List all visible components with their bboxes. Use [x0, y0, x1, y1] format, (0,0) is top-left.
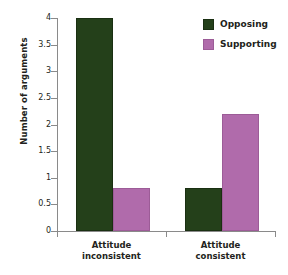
- bar-opposing-1: [185, 188, 222, 231]
- legend-swatch-icon: [203, 39, 214, 50]
- y-axis-tick-label: 2.5: [9, 93, 51, 102]
- y-axis-tick-label: 4: [9, 13, 51, 22]
- x-axis-tick: [166, 231, 167, 237]
- legend-label: Supporting: [220, 39, 277, 49]
- y-axis-tick-label: 3.5: [9, 40, 51, 49]
- y-axis-tick-label: 3: [9, 66, 51, 75]
- y-axis-tick-label: 1: [9, 173, 51, 182]
- y-axis-tick-label: 2: [9, 120, 51, 129]
- x-axis-label-line: inconsistent: [57, 251, 167, 262]
- x-axis-group-label: Attitudeinconsistent: [57, 240, 167, 262]
- legend-label: Opposing: [220, 19, 268, 29]
- legend-item-opposing[interactable]: Opposing: [203, 16, 277, 32]
- chart-legend: OpposingSupporting: [203, 16, 277, 56]
- bar-supporting-1: [222, 114, 259, 231]
- y-axis-tick-label: 0: [9, 226, 51, 235]
- x-axis-tick: [57, 231, 58, 237]
- x-axis-label-line: consistent: [166, 251, 276, 262]
- bar-opposing-0: [76, 18, 113, 231]
- legend-item-supporting[interactable]: Supporting: [203, 36, 277, 52]
- x-axis-group-label: Attitudeconsistent: [166, 240, 276, 262]
- y-axis-tick-label: 1.5: [9, 146, 51, 155]
- x-axis-label-line: Attitude: [166, 240, 276, 251]
- y-axis-tick-label: 0.5: [9, 199, 51, 208]
- legend-swatch-icon: [203, 19, 214, 30]
- x-axis-label-line: Attitude: [57, 240, 167, 251]
- x-axis-tick: [275, 231, 276, 237]
- bar-supporting-0: [113, 188, 150, 231]
- bar-chart: Number of arguments 00.511.522.533.54 At…: [0, 0, 288, 275]
